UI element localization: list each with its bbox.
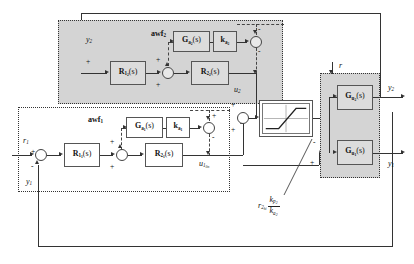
sign-y1-minus: - [31,163,34,171]
arrow-r-into-plant [329,70,333,74]
wire-Ga2-to-ka2 [210,42,213,43]
sign-suminner1-top-plus: + [110,138,114,146]
awf2-region [58,20,283,104]
saturation-block [259,100,313,137]
wire-y2-outer-right [380,13,381,98]
arrow-into-Ga1 [123,125,127,129]
sum-junction-main-loop1 [35,149,47,161]
block-Gu-1: Gu1(s) [337,140,373,165]
saturation-curve-panel [262,103,310,134]
sign-sumu-top-minus: - [313,139,316,147]
annotation-fraction: kp2 ka2 [268,196,280,218]
wire-y1-outer-right [392,112,393,247]
wire-r1-in [12,155,32,156]
arrow-into-Gu1 [333,150,337,154]
sum-junction-awf2-outer [250,36,262,48]
wire-u-split-riser [329,97,330,153]
arrow-y1-out [401,150,405,154]
wire-y2-outer-top [81,13,381,14]
arrow-up-into-sum2 [165,62,169,66]
arrow-into-sumaw2 [245,39,249,43]
wire-sat-fb1-horiz [190,110,230,111]
saturation-curve-icon [263,104,309,133]
wire-u1lin-up-to-summain [243,124,244,155]
block-R1-1: R11(s) [64,143,100,167]
block-Ga-1: Ga1(s) [126,117,163,138]
control-system-block-diagram: awf2 y2 + R12(s) + + R22(s) Ga2(s) ka2 -… [0,0,414,264]
sign-sum2-bottom-plus: + [156,81,160,89]
awf2-label: awf2 [151,30,166,39]
sign-y2-plus: + [86,58,90,66]
signal-label-u1lin: u1lin [199,160,209,170]
signal-label-y2-output: y2 [388,84,394,93]
sign-sumaw1-top-plus: + [212,112,216,120]
sign-sumaw2-bottom-minus: - [258,48,261,56]
wire-Gu1-to-y1 [373,153,403,154]
awf1-label: awf1 [88,116,103,125]
block-R2-1: R21(s) [145,143,183,167]
arrow-into-sumaw1 [198,125,202,129]
wire-into-sumu-left [243,165,319,166]
sum-junction-awf1-inner [116,149,128,161]
wire-Gu2-to-y2 [373,97,403,98]
arrow-into-suminner1 [111,152,115,156]
signal-label-r1: r1 [23,137,29,146]
arrow-into-Gu2 [333,94,337,98]
sign-sumaw2-top-minus: - [258,26,261,34]
annotation-numerator: kp2 [268,196,280,206]
arrow-y2-out [401,94,405,98]
signal-label-y1-feedback: y1 [26,178,32,187]
sign-sum2-top-plus: + [156,56,160,64]
arrow-into-Ga2 [170,39,174,43]
block-ka-1: ka1 [166,117,190,138]
annotation-denominator: ka2 [268,207,280,217]
sum-junction-awf2-inner [162,67,174,79]
arrow-into-R12 [105,70,109,74]
arrow-up-into-suminner1 [118,144,122,148]
wire-R22-out [229,73,256,74]
annotation-base: r2hi [258,202,267,212]
arrow-down-into-sumaw2 [253,30,257,34]
wire-R21-out-to-summain [183,155,243,156]
sign-suminner1-bottom-plus: + [110,163,114,171]
signal-label-y1-output: y1 [388,160,394,169]
signal-label-r-disturbance: r [339,62,342,70]
wire-sat-fb-top-horiz [237,24,284,25]
wire-u2-down [256,73,257,118]
sign-sumaw1-bottom-minus: - [212,134,215,142]
wire-y2-to-R12 [81,73,107,74]
block-R2-2: R22(s) [191,61,229,85]
arrow-down-into-sumaw1 [206,116,210,120]
wire-y1-outer-bottom [38,246,393,247]
sign-summain-top-plus: + [231,101,235,109]
sign-summain-bottom-plus: + [231,126,235,134]
sum-junction-awf1-outer [203,122,215,134]
block-ka-2: ka2 [213,31,237,52]
block-Ga-2: Ga2(s) [173,31,210,52]
arrow-into-R11 [59,152,63,156]
sum-junction-before-saturation [237,112,249,124]
signal-label-y2-input: y2 [86,36,92,45]
wire-Ga1-to-ka1 [163,128,166,129]
annotation-r2hi-kp2-ka2: r2hi kp2 ka2 [258,196,280,218]
block-R1-2: R12(s) [110,61,146,85]
arrow-into-sum2 [157,70,161,74]
block-Gu-2: Gu2(s) [337,85,373,110]
arrow-into-R22 [186,70,190,74]
arrow-r1-into-sum [30,152,34,156]
arrow-into-R21 [140,152,144,156]
signal-label-u2: u2 [234,86,241,95]
